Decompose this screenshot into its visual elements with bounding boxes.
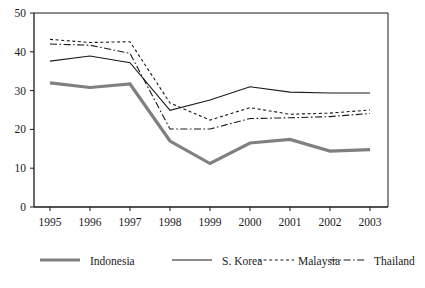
x-tick-label: 2001 (279, 216, 302, 228)
legend-label-s-korea[interactable]: S. Korea (222, 255, 262, 267)
series-line-s-korea (50, 56, 370, 110)
x-tick-label: 2000 (239, 216, 262, 228)
y-tick-label: 40 (15, 46, 27, 58)
x-tick-label: 1995 (39, 216, 62, 228)
series-layer (50, 39, 370, 163)
series-line-malaysia (50, 39, 370, 120)
legend-label-indonesia[interactable]: Indonesia (90, 255, 135, 267)
x-tick-label: 1996 (79, 216, 102, 228)
y-axis-tick-labels: 01020304050 (15, 7, 27, 213)
y-tick-label: 50 (15, 7, 27, 19)
x-tick-label: 2002 (319, 216, 342, 228)
y-tick-label: 20 (15, 123, 27, 135)
y-tick-label: 0 (20, 201, 26, 213)
legend-label-thailand[interactable]: Thailand (374, 255, 415, 267)
y-tick-label: 30 (15, 85, 27, 97)
plot-axes (34, 13, 388, 207)
y-tick-label: 10 (15, 162, 27, 174)
x-tick-label: 2003 (359, 216, 382, 228)
line-chart: 01020304050 1995199619971998199920002001… (0, 0, 425, 288)
legend-label-malaysia[interactable]: Malaysia (298, 255, 340, 268)
chart-figure: 01020304050 1995199619971998199920002001… (0, 0, 425, 288)
series-line-indonesia (50, 83, 370, 164)
x-tick-label: 1999 (199, 216, 222, 228)
x-axis-tick-labels: 199519961997199819992000200120022003 (39, 216, 382, 228)
x-tick-label: 1998 (159, 216, 182, 228)
chart-legend: IndonesiaS. KoreaMalaysiaThailand (40, 255, 415, 268)
x-tick-label: 1997 (119, 216, 142, 228)
